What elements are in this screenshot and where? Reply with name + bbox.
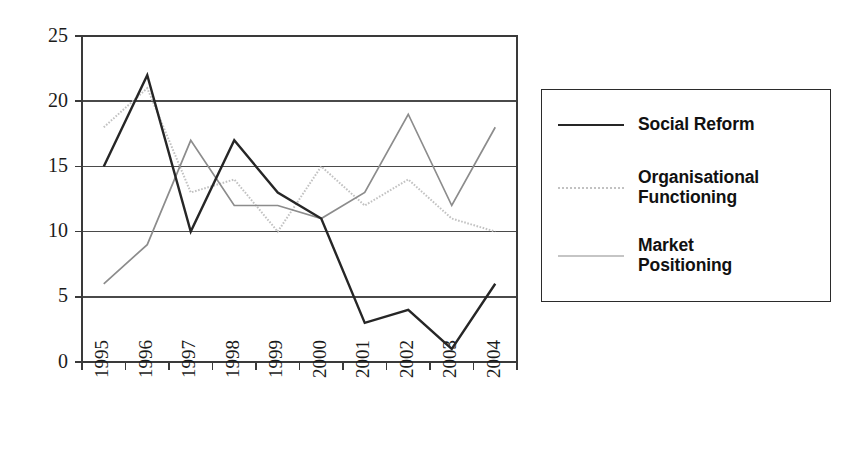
y-tick-label-0: 0 [58,350,68,372]
x-tick-label-1997: 1997 [178,340,199,378]
x-tick-label-2002: 2002 [396,340,417,378]
x-tick-label-2004: 2004 [483,340,504,379]
y-tick-label-25: 25 [48,24,68,46]
legend-line-swatch-social-reform [558,118,624,132]
y-tick-label-20: 20 [48,89,68,111]
legend-line-swatch-organisational-functioning [558,181,624,195]
x-tick-label-1996: 1996 [135,340,156,378]
legend-label-social-reform: Social Reform [638,115,754,135]
legend-item-market-positioning[interactable]: Market Positioning [542,228,830,284]
y-tick-label-15: 15 [48,154,68,176]
y-tick-label-10: 10 [48,219,68,241]
y-tick-label-5: 5 [58,284,68,306]
legend-item-organisational-functioning[interactable]: Organisational Functioning [542,160,830,216]
legend-label-organisational-functioning: Organisational Functioning [638,168,759,208]
y-axis-tick-labels: 0510152025 [48,24,68,372]
x-tick-label-2001: 2001 [352,340,373,378]
chart-legend: Social Reform Organisational Functioning… [541,89,831,302]
line-chart-figure: 0510152025 19951996199719981999200020012… [0,0,540,450]
chart-page: 0510152025 19951996199719981999200020012… [0,0,861,450]
data-series-lines [104,75,496,349]
chart-canvas: 0510152025 19951996199719981999200020012… [0,0,540,450]
x-tick-label-1999: 1999 [265,340,286,378]
legend-line-swatch-market-positioning [558,249,624,263]
x-axis-tick-labels: 1995199619971998199920002001200220032004 [91,340,504,379]
legend-label-market-positioning: Market Positioning [638,236,732,276]
legend-item-social-reform[interactable]: Social Reform [542,102,830,148]
x-tick-label-2000: 2000 [309,340,330,378]
x-tick-label-1995: 1995 [91,340,112,378]
x-tick-label-1998: 1998 [222,340,243,378]
